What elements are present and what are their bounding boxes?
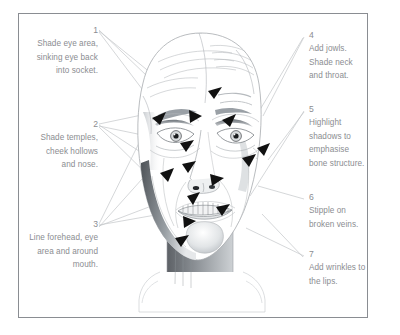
callout-5-text: Highlight shadows to emphasise bone stru… <box>309 118 364 168</box>
chin <box>186 222 223 254</box>
callout-6: 6 Stipple on broken veins. <box>309 191 367 231</box>
callout-4: 4 Add jowls. Shade neck and throat. <box>309 29 367 83</box>
callout-7-text: Add wrinkles to the lips. <box>309 263 365 286</box>
callout-3-text: Line forehead, eye area and around mouth… <box>29 233 98 269</box>
callout-2-number: 2 <box>40 118 98 130</box>
callout-3: 3 Line forehead, eye area and around mou… <box>20 218 98 272</box>
callout-4-number: 4 <box>309 29 367 41</box>
callout-6-number: 6 <box>309 191 367 203</box>
callout-5-number: 5 <box>309 103 367 115</box>
callout-1: 1 Shade eye area, sinking eye back into … <box>28 24 98 78</box>
callout-7-number: 7 <box>309 248 369 260</box>
callout-6-text: Stipple on broken veins. <box>309 206 358 229</box>
callout-4-text: Add jowls. Shade neck and throat. <box>309 44 353 80</box>
diagram-canvas: 1 Shade eye area, sinking eye back into … <box>0 0 400 335</box>
callout-1-text: Shade eye area, sinking eye back into so… <box>37 39 98 75</box>
callout-7: 7 Add wrinkles to the lips. <box>309 248 369 288</box>
callout-2-text: Shade temples, cheek hollows and nose. <box>40 133 98 169</box>
callout-2: 2 Shade temples, cheek hollows and nose. <box>40 118 98 172</box>
callout-1-number: 1 <box>28 24 98 36</box>
callout-5: 5 Highlight shadows to emphasise bone st… <box>309 103 367 170</box>
callout-3-number: 3 <box>20 218 98 230</box>
